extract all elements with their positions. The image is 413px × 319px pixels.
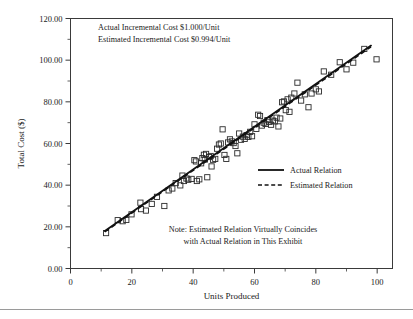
x-tick-label: 0: [68, 277, 72, 287]
legend-label: Actual Relation: [290, 166, 342, 175]
x-tick-label: 40: [189, 277, 198, 287]
x-axis-title: Units Produced: [204, 291, 260, 301]
x-tick-label: 80: [312, 277, 321, 287]
note-line: with Actual Relation in This Exhibit: [184, 237, 304, 246]
scatter-plot: 0.0020.0040.0060.0080.00100.00120.00Tota…: [0, 0, 413, 319]
y-tick-label: 20.00: [43, 222, 62, 232]
y-tick-label: 120.00: [39, 14, 62, 24]
y-tick-label: 80.00: [43, 97, 62, 107]
bottom-divider: [0, 309, 413, 310]
y-tick-label: 100.00: [39, 55, 62, 65]
x-tick-label: 60: [250, 277, 259, 287]
annotation-line: Estimated Incremental Cost $0.994/Unit: [98, 35, 231, 44]
note-line: Note: Estimated Relation Virtually Coinc…: [169, 225, 318, 234]
y-tick-label: 0.00: [48, 264, 63, 274]
x-tick-label: 100: [371, 277, 384, 287]
y-tick-label: 40.00: [43, 180, 62, 190]
chart-figure: 0.0020.0040.0060.0080.00100.00120.00Tota…: [0, 0, 413, 319]
legend-label: Estimated Relation: [290, 181, 353, 190]
y-tick-label: 60.00: [43, 139, 62, 149]
x-tick-label: 20: [128, 277, 137, 287]
annotation-line: Actual Incremental Cost $1.000/Unit: [98, 23, 220, 32]
y-axis-title: Total Cost ($): [16, 119, 26, 169]
